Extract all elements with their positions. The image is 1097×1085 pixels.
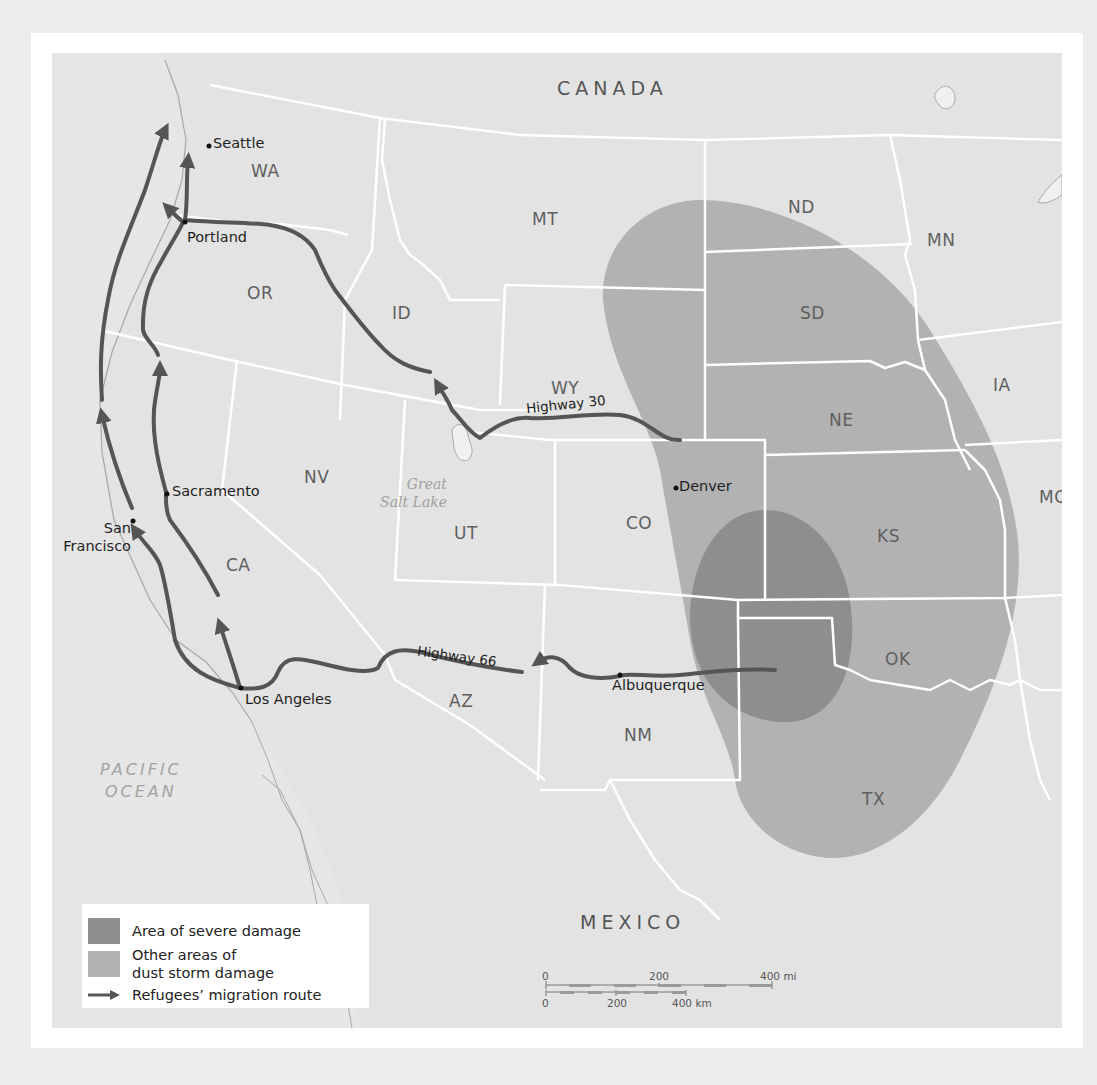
scale-km-400: 400 km bbox=[672, 997, 712, 1009]
scale-mi-400: 400 mi bbox=[760, 970, 797, 982]
city-label-seattle: Seattle bbox=[213, 135, 264, 151]
legend-item-severe: Area of severe damage bbox=[88, 918, 301, 944]
route-sacramento-north bbox=[154, 368, 166, 492]
route-portland-seattle bbox=[185, 160, 188, 220]
state-label-nm: NM bbox=[624, 725, 652, 745]
state-label-id: ID bbox=[392, 303, 411, 323]
state-label-sd: SD bbox=[800, 303, 825, 323]
city-label-sacramento: Sacramento bbox=[172, 483, 260, 499]
state-label-nv: NV bbox=[304, 467, 329, 487]
legend-item-other: Other areas of dust storm damage bbox=[88, 946, 274, 982]
state-label-or: OR bbox=[247, 283, 273, 303]
country-label-canada: CANADA bbox=[557, 77, 668, 99]
lake-label-great-salt-lake: Great Salt Lake bbox=[357, 475, 447, 511]
map-legend: Area of severe damage Other areas of dus… bbox=[82, 904, 369, 1008]
state-label-ks: KS bbox=[877, 526, 900, 546]
map-graphics bbox=[52, 53, 1062, 1028]
state-label-ne: NE bbox=[829, 410, 853, 430]
legend-item-route: Refugees’ migration route bbox=[88, 986, 321, 1004]
lake-of-the-woods bbox=[935, 86, 955, 109]
other-damage-swatch bbox=[88, 951, 120, 977]
route-valley-sacramento bbox=[166, 492, 218, 595]
state-label-az: AZ bbox=[449, 691, 473, 711]
state-label-ut: UT bbox=[454, 523, 478, 543]
city-label-portland: Portland bbox=[187, 229, 247, 245]
ocean-label-pacific: PACIFIC OCEAN bbox=[100, 759, 182, 803]
state-label-wa: WA bbox=[251, 161, 280, 181]
state-label-co: CO bbox=[626, 513, 652, 533]
state-label-tx: TX bbox=[862, 789, 885, 809]
state-label-ok: OK bbox=[885, 649, 911, 669]
route-arrow-icon bbox=[88, 989, 120, 1001]
lake-superior bbox=[1038, 175, 1062, 203]
scale-km-200: 200 bbox=[607, 997, 627, 1009]
state-label-mt: MT bbox=[532, 209, 558, 229]
scale-km-0: 0 bbox=[542, 997, 549, 1009]
state-label-nd: ND bbox=[788, 197, 815, 217]
city-label-denver: Denver bbox=[679, 478, 732, 494]
state-label-ca: CA bbox=[226, 555, 251, 575]
dust-bowl-map: CANADA MEXICO PACIFIC OCEAN Great Salt L… bbox=[52, 53, 1062, 1028]
severe-damage-swatch bbox=[88, 918, 120, 944]
route-la-to-valley bbox=[220, 625, 240, 688]
city-label-albuquerque: Albuquerque bbox=[612, 677, 705, 693]
scale-mi-0: 0 bbox=[542, 970, 549, 982]
scale-bar bbox=[546, 981, 772, 996]
scale-mi-200: 200 bbox=[649, 970, 669, 982]
state-label-mo: MO bbox=[1039, 487, 1062, 507]
state-label-ia: IA bbox=[993, 375, 1011, 395]
country-label-mexico: MEXICO bbox=[580, 911, 685, 933]
city-label-los-angeles: Los Angeles bbox=[245, 691, 332, 707]
state-label-mn: MN bbox=[927, 230, 955, 250]
city-label-san-francisco: San Francisco bbox=[52, 519, 131, 555]
